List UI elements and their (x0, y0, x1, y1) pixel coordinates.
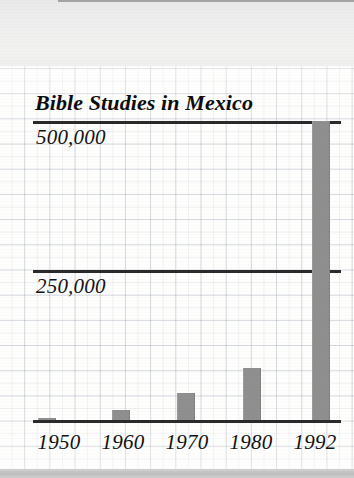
gridline-500000 (33, 121, 341, 124)
bar-1980 (243, 368, 261, 421)
x-tick-1950: 1950 (27, 427, 91, 459)
x-tick-1960: 1960 (91, 427, 155, 459)
x-axis-baseline (33, 420, 341, 423)
y-axis-label-250000: 250,000 (36, 274, 106, 299)
x-axis-tick-labels: 1950 1960 1970 1980 1992 (27, 427, 347, 459)
y-axis-label-500000: 500,000 (36, 125, 106, 150)
chart-plot-area: Bible Studies in Mexico 500,000 250,000 … (0, 0, 354, 478)
x-tick-1992: 1992 (283, 427, 347, 459)
gridline-250000 (33, 270, 341, 273)
scanned-chart-page: Bible Studies in Mexico 500,000 250,000 … (0, 0, 354, 478)
page-bottom-margin-band (0, 469, 354, 478)
bar-1970 (177, 393, 195, 421)
chart-title: Bible Studies in Mexico (35, 90, 253, 116)
x-tick-1980: 1980 (219, 427, 283, 459)
bar-1992 (312, 121, 330, 421)
x-tick-1970: 1970 (155, 427, 219, 459)
